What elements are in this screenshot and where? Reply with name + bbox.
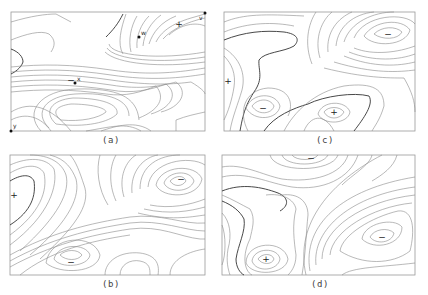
contour-plot-c: − + − +	[224, 12, 416, 132]
point-w-label: w	[141, 29, 146, 36]
minimum-marker: −	[307, 153, 315, 163]
point-v-label: v	[199, 14, 203, 21]
caption-b: (b)	[96, 279, 126, 289]
minimum-marker: −	[177, 174, 185, 184]
minimum-marker: −	[378, 232, 386, 242]
contour-panel-a: + − w x y v	[11, 12, 206, 132]
maximum-marker: +	[262, 254, 270, 264]
contour-plot-a: + − w x y v	[11, 12, 206, 132]
minimum-marker: −	[384, 29, 392, 39]
maximum-marker: +	[330, 107, 338, 117]
point-y-label: y	[13, 122, 17, 130]
panel-frame	[222, 155, 415, 275]
maximum-marker: +	[10, 190, 18, 200]
caption-a: (a)	[96, 135, 126, 145]
caption-c: (c)	[310, 135, 340, 145]
caption-d: (d)	[305, 279, 335, 289]
contour-plot-b: + − −	[10, 155, 206, 276]
contour-panel-d: − + −	[222, 155, 416, 276]
point-y-marker	[10, 130, 13, 133]
minimum-marker: −	[67, 257, 75, 267]
panel-frame	[10, 155, 205, 275]
contour-panel-c: − + − +	[224, 12, 416, 132]
minimum-marker: −	[259, 103, 267, 113]
maximum-marker: +	[224, 76, 232, 86]
point-v-marker	[204, 12, 207, 15]
maximum-marker: +	[175, 19, 183, 29]
contour-plot-d: − + −	[222, 155, 416, 276]
point-x-label: x	[77, 75, 81, 82]
contour-panel-b: + − −	[10, 155, 206, 276]
